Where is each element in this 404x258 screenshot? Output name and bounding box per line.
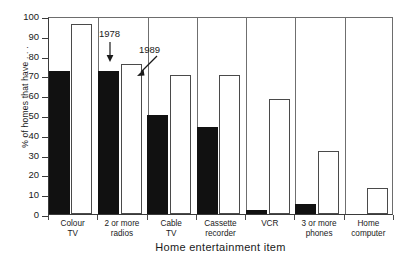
y-tick-label: 60	[13, 91, 39, 101]
bar-1989-7	[367, 188, 388, 214]
category-separator	[295, 18, 296, 214]
bar-1989-2	[121, 64, 142, 214]
bar-1978-6	[295, 204, 316, 214]
cropped-chart-title	[120, 0, 340, 2]
annotation-label-1978: 1978	[99, 28, 120, 39]
y-tick-100	[42, 18, 49, 19]
bar-1978-5	[246, 210, 267, 214]
y-tick-label: 10	[13, 190, 39, 200]
annotation-arrow-down-icon	[104, 41, 118, 63]
bar-1989-4	[219, 75, 240, 214]
y-tick-label: 90	[13, 32, 39, 42]
category-label-5: VCR	[245, 219, 294, 229]
category-separator	[345, 18, 346, 214]
x-axis-title: Home entertainment item	[48, 241, 393, 253]
y-tick-label: 0	[13, 210, 39, 220]
y-tick-label: 80	[13, 52, 39, 62]
y-tick-label: 20	[13, 170, 39, 180]
category-label-4: Cassette recorder	[196, 219, 245, 238]
bar-1978-1	[49, 71, 70, 214]
plot-inner	[49, 18, 392, 214]
bar-1989-6	[318, 151, 339, 214]
category-label-2: 2 or more radios	[97, 219, 146, 238]
y-tick-label: 100	[13, 12, 39, 22]
y-tick-90	[42, 38, 49, 39]
bar-1989-3	[170, 75, 191, 214]
category-label-6: 3 or more phones	[294, 219, 343, 238]
bar-1978-3	[147, 115, 168, 214]
y-tick-label: 40	[13, 131, 39, 141]
plot-area	[48, 17, 393, 215]
x-tick	[393, 215, 394, 220]
category-label-3: Cable TV	[147, 219, 196, 238]
category-label-1: Colour TV	[48, 219, 97, 238]
y-tick-80	[42, 58, 49, 59]
y-tick-label: 50	[13, 111, 39, 121]
y-tick-label: 30	[13, 151, 39, 161]
bar-1989-5	[269, 99, 290, 214]
category-label-7: Home computer	[344, 219, 393, 238]
bar-1978-4	[197, 127, 218, 214]
y-tick-label: 70	[13, 71, 39, 81]
bar-1978-2	[98, 71, 119, 214]
annotation-arrow-diagonal-icon	[134, 54, 160, 78]
bar-chart: % of homes that have . . . 0102030405060…	[0, 0, 404, 258]
category-separator	[246, 18, 247, 214]
bar-1989-1	[71, 24, 92, 214]
